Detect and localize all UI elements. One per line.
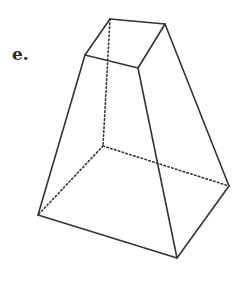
edge-back-right-vertical [165, 24, 229, 186]
edge-front-right-vertical [138, 68, 177, 258]
edge-bottom-front [38, 215, 177, 258]
edge-top-front [85, 55, 138, 68]
edge-top-back [110, 19, 165, 24]
hidden-edge-back-left-vertical [103, 19, 110, 146]
frustum-diagram [0, 0, 251, 290]
edge-bottom-right [177, 186, 229, 258]
edge-top-left [85, 19, 110, 55]
edge-top-right [138, 24, 165, 68]
hidden-edge-bottom-back [103, 146, 229, 186]
